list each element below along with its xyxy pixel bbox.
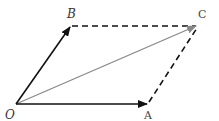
point-label-c: C	[198, 8, 206, 21]
parallelogram-diagram: B C O A	[0, 0, 219, 121]
point-label-o: O	[5, 108, 15, 121]
point-label-a: A	[143, 109, 153, 121]
point-label-b: B	[66, 7, 76, 21]
dashed-edge-ac	[149, 28, 197, 102]
